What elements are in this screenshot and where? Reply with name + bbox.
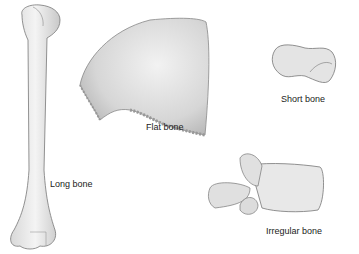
flat-bone-illustration — [80, 18, 209, 135]
irregular-bone-label: Irregular bone — [266, 226, 322, 236]
short-bone-label: Short bone — [281, 94, 325, 104]
long-bone-illustration — [11, 5, 60, 249]
flat-bone-label: Flat bone — [146, 122, 184, 132]
short-bone-illustration — [272, 45, 335, 83]
bone-types-figure: Long bone Flat bone Short bone Irregular… — [0, 0, 359, 254]
irregular-bone-illustration — [208, 154, 323, 214]
long-bone-label: Long bone — [50, 179, 93, 189]
